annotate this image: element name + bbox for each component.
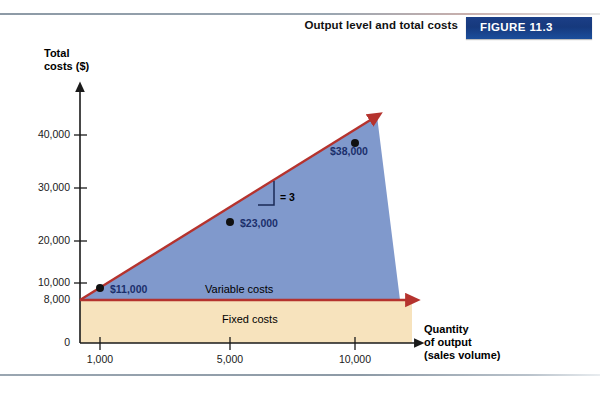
y-tick-label-10000: 10,000 xyxy=(14,276,70,288)
figure-number-label: FIGURE 11.3 xyxy=(480,21,553,33)
data-point-5000 xyxy=(226,218,234,226)
figure-container: Output level and total costs FIGURE 11.3 xyxy=(0,0,600,398)
x-tick-label-5000: 5,000 xyxy=(200,353,260,365)
x-axis-title: Quantity of output (sales volume) xyxy=(424,323,500,362)
slope-value-label: = 3 xyxy=(280,191,295,203)
fixed-costs-label: Fixed costs xyxy=(222,313,278,325)
y-axis-title-line1: Total xyxy=(44,47,89,60)
x-tick-label-1000: 1,000 xyxy=(70,353,130,365)
chart-plot-area: Total costs ($) Quantity of output (sale… xyxy=(0,40,600,370)
y-tick-label-0: 0 xyxy=(14,336,70,348)
x-axis-title-line1: Quantity xyxy=(424,323,500,336)
x-tick-label-10000: 10,000 xyxy=(325,353,385,365)
data-label-23000: $23,000 xyxy=(240,217,278,229)
bottom-divider-rule xyxy=(0,374,600,376)
y-tick-label-20000: 20,000 xyxy=(14,234,70,246)
y-axis-title: Total costs ($) xyxy=(44,47,89,73)
figure-caption: Output level and total costs xyxy=(228,19,458,31)
chart-canvas xyxy=(0,40,600,370)
y-tick-label-8000: 8,000 xyxy=(14,293,70,305)
data-label-11000: $11,000 xyxy=(110,283,147,295)
data-label-38000: $38,000 xyxy=(330,145,368,157)
variable-costs-label: Variable costs xyxy=(205,283,273,295)
data-point-1000 xyxy=(96,284,104,292)
x-axis-title-line3: (sales volume) xyxy=(424,349,500,362)
y-axis-title-line2: costs ($) xyxy=(44,60,89,73)
top-divider-rule xyxy=(0,13,600,15)
y-tick-label-40000: 40,000 xyxy=(14,128,70,140)
x-axis-title-line2: of output xyxy=(424,336,500,349)
figure-number-badge: FIGURE 11.3 xyxy=(466,17,592,39)
y-tick-label-30000: 30,000 xyxy=(14,181,70,193)
